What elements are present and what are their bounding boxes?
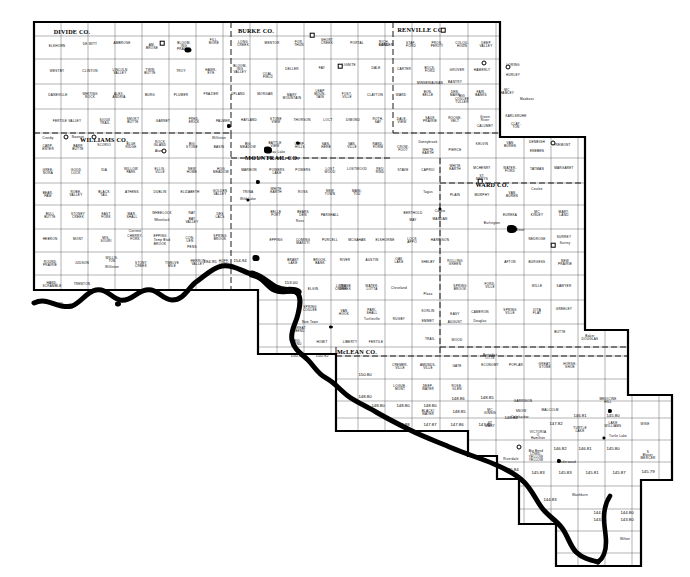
city-area-marker [557, 459, 561, 463]
city-area-marker [227, 124, 231, 128]
city-area-marker [608, 409, 612, 413]
city-square-marker [478, 179, 483, 184]
city-circle-marker [506, 65, 511, 70]
city-circle-marker [64, 135, 69, 140]
map-geometry [0, 0, 690, 577]
city-area-marker [296, 142, 300, 145]
city-area-marker [253, 255, 260, 261]
city-circle-marker [551, 141, 556, 146]
city-area-marker [329, 326, 333, 329]
city-area-marker [264, 147, 272, 154]
city-square-marker [310, 33, 315, 38]
city-area-marker [603, 437, 606, 440]
city-square-marker [441, 28, 446, 33]
city-area-marker [439, 208, 442, 211]
city-circle-marker [517, 445, 522, 450]
city-square-marker [160, 41, 165, 46]
city-area-marker [256, 180, 260, 184]
city-area-marker [115, 302, 121, 307]
state-outline [34, 22, 672, 566]
city-circle-marker [162, 149, 167, 154]
city-area-marker [247, 199, 250, 202]
city-square-marker [551, 243, 556, 248]
city-circle-marker [92, 135, 97, 140]
river-south-branch [598, 496, 610, 562]
city-circle-marker [482, 61, 487, 66]
township-map: DIVIDE CO.BURKE CO.RENVILLE CO.WILLIAMS … [0, 0, 690, 577]
city-area-marker [185, 48, 192, 53]
city-area-marker [507, 225, 517, 233]
city-square-marker [338, 64, 343, 69]
missouri-river [34, 266, 598, 562]
